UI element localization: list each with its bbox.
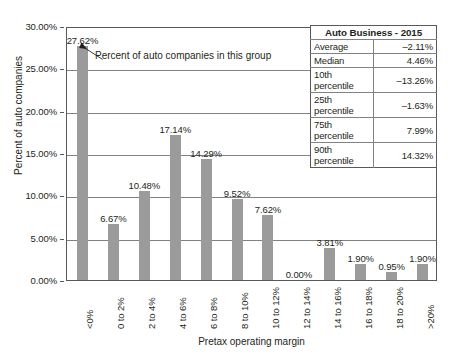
x-axis-tick-label: 6 to 8%: [209, 297, 219, 329]
x-axis-tick-label: 14 to 16%: [333, 287, 343, 329]
chart-figure: Percent of auto companies 0.00%5.00%10.0…: [0, 0, 459, 356]
y-axis-tick-mark: [60, 154, 64, 155]
stats-row-value: 4.46%: [374, 54, 437, 68]
bar-value-label: 1.90%: [347, 254, 373, 264]
y-axis-tick-label: 25.00%: [25, 64, 57, 74]
x-axis-tick-label: 2 to 4%: [147, 297, 157, 329]
bar-value-label: 9.52%: [224, 189, 250, 199]
bar-value-label: 0.00%: [286, 270, 312, 280]
bar-value-label: 6.67%: [100, 214, 126, 224]
stats-table-row: Median4.46%: [311, 54, 437, 68]
y-axis-tick-mark: [60, 239, 64, 240]
stats-table: Auto Business - 2015 Average–2.11%Median…: [310, 25, 437, 168]
stats-table-body: Average–2.11%Median4.46%10th percentile–…: [311, 40, 437, 168]
bar-value-label: 27.62%: [67, 36, 99, 46]
stats-table-title: Auto Business - 2015: [311, 26, 437, 40]
stats-row-label: 25th percentile: [311, 93, 374, 118]
x-axis-tick-label: 4 to 6%: [178, 297, 188, 329]
stats-row-value: –13.26%: [374, 68, 437, 93]
stats-table-row: 90th percentile14.32%: [311, 143, 437, 168]
bar-value-label: 7.62%: [255, 205, 281, 215]
y-axis-tick-mark: [60, 112, 64, 113]
gridline: [67, 197, 436, 198]
stats-row-label: 75th percentile: [311, 118, 374, 143]
y-axis-tick-label: 5.00%: [31, 234, 57, 244]
bar-value-label: 14.29%: [190, 149, 222, 159]
bar-value-label: 0.95%: [378, 262, 404, 272]
bar: [108, 224, 119, 280]
stats-table-row: 75th percentile7.99%: [311, 118, 437, 143]
bar: [386, 272, 397, 280]
stats-row-value: –2.11%: [374, 40, 437, 54]
bar: [77, 46, 88, 280]
y-axis-tick-label: 0.00%: [31, 276, 57, 286]
chart-annotation-label: Percent of auto companies in this group: [95, 50, 271, 61]
y-axis-tick-label: 15.00%: [25, 149, 57, 159]
stats-table-row: 10th percentile–13.26%: [311, 68, 437, 93]
y-axis-tick-label: 20.00%: [25, 107, 57, 117]
y-axis-tick-label: 30.00%: [25, 22, 57, 32]
stats-row-label: 90th percentile: [311, 143, 374, 168]
x-axis-tick-label: 16 to 18%: [364, 287, 374, 329]
bar-value-label: 1.90%: [409, 254, 435, 264]
x-axis-tick-label: <0%: [85, 310, 95, 329]
stats-row-label: Median: [311, 54, 374, 68]
bar: [232, 199, 243, 280]
x-axis-tick-label: 12 to 14%: [302, 287, 312, 329]
y-axis: 0.00%5.00%10.00%15.00%20.00%25.00%30.00%: [0, 27, 64, 281]
stats-row-label: 10th percentile: [311, 68, 374, 93]
x-axis-tick-label: 10 to 12%: [271, 287, 281, 329]
x-axis-tick-label: 18 to 20%: [395, 287, 405, 329]
x-axis-tick-label: 0 to 2%: [116, 297, 126, 329]
bar: [324, 248, 335, 280]
stats-row-value: –1.63%: [374, 93, 437, 118]
bar: [139, 191, 150, 280]
gridline: [67, 240, 436, 241]
x-axis: <0%0 to 2%2 to 4%4 to 6%6 to 8%8 to 10%1…: [66, 283, 437, 331]
x-axis-title: Pretax operating margin: [66, 336, 437, 347]
bar: [170, 135, 181, 280]
y-axis-tick-mark: [60, 281, 64, 282]
y-axis-tick-mark: [60, 196, 64, 197]
bar-value-label: 10.48%: [128, 181, 160, 191]
bar: [201, 159, 212, 280]
bar-value-label: 17.14%: [159, 125, 191, 135]
y-axis-tick-label: 10.00%: [25, 191, 57, 201]
bar: [262, 215, 273, 280]
stats-row-value: 14.32%: [374, 143, 437, 168]
x-axis-tick-label: 8 to 10%: [240, 292, 250, 329]
bar: [417, 264, 428, 280]
bar: [355, 264, 366, 280]
stats-row-value: 7.99%: [374, 118, 437, 143]
stats-row-label: Average: [311, 40, 374, 54]
y-axis-tick-mark: [60, 69, 64, 70]
y-axis-tick-mark: [60, 27, 64, 28]
x-axis-tick-label: >20%: [426, 305, 436, 329]
stats-table-row: 25th percentile–1.63%: [311, 93, 437, 118]
stats-table-row: Average–2.11%: [311, 40, 437, 54]
bar-value-label: 3.81%: [317, 238, 343, 248]
